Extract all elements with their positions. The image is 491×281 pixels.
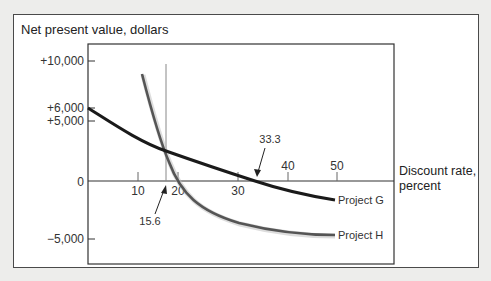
x-tick-50: 50 <box>330 159 344 173</box>
annotation-33-3: 33.3 <box>259 133 280 145</box>
y-tick-6000: +6,000 <box>47 101 84 115</box>
project-h-curve <box>142 74 335 235</box>
y-tick-minus-5000: −5,000 <box>47 232 84 246</box>
annotation-arrow-33-3 <box>258 148 265 172</box>
arrow-head-icon <box>161 185 167 194</box>
project-h-shadow <box>143 75 335 236</box>
legend-project-g: Project G <box>338 194 384 206</box>
x-tick-30: 30 <box>231 184 245 198</box>
y-axis <box>88 61 95 239</box>
y-tick-10000: +10,000 <box>40 54 84 68</box>
x-axis-title-line-1: Discount rate, <box>399 164 476 179</box>
x-tick-40: 40 <box>281 159 295 173</box>
y-tick-5000: +5,000 <box>47 114 84 128</box>
x-axis-title-line-2: percent <box>399 179 476 194</box>
x-tick-10: 10 <box>131 184 145 198</box>
npv-chart: +10,000 +6,000 +5,000 0 −5,000 10 20 30 … <box>0 0 491 281</box>
x-axis-title: Discount rate, percent <box>399 164 476 194</box>
annotation-15-6: 15.6 <box>139 215 160 227</box>
arrow-head-icon <box>254 169 261 177</box>
project-g-curve <box>88 108 335 200</box>
annotation-arrow-15-6 <box>155 190 164 214</box>
legend-project-h: Project H <box>338 229 383 241</box>
y-tick-0: 0 <box>77 175 84 189</box>
